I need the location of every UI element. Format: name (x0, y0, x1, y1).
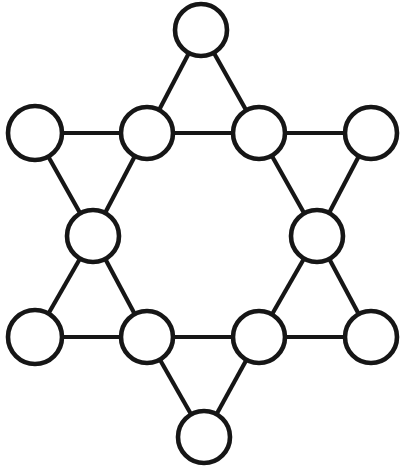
node-middle-right[interactable] (291, 210, 343, 262)
node-upper-right-inner[interactable] (233, 107, 285, 159)
node-lower-right-inner-circle[interactable] (233, 311, 285, 363)
node-bottom[interactable] (178, 411, 230, 463)
node-lower-right-outer[interactable] (345, 311, 397, 363)
node-upper-left-inner[interactable] (121, 107, 173, 159)
node-top-circle[interactable] (175, 4, 227, 56)
node-upper-left-inner-circle[interactable] (121, 107, 173, 159)
node-middle-left[interactable] (67, 210, 119, 262)
node-upper-right-outer-circle[interactable] (345, 107, 397, 159)
node-lower-left-inner[interactable] (121, 311, 173, 363)
node-lower-left-outer-circle[interactable] (8, 310, 62, 364)
node-middle-right-circle[interactable] (291, 210, 343, 262)
node-top[interactable] (175, 4, 227, 56)
node-lower-right-inner[interactable] (233, 311, 285, 363)
node-lower-left-inner-circle[interactable] (121, 311, 173, 363)
node-bottom-circle[interactable] (178, 411, 230, 463)
node-upper-right-outer[interactable] (345, 107, 397, 159)
node-upper-left-outer-circle[interactable] (8, 106, 62, 160)
node-upper-right-inner-circle[interactable] (233, 107, 285, 159)
hexagram-diagram (0, 0, 406, 467)
node-upper-left-outer[interactable] (8, 106, 62, 160)
node-lower-right-outer-circle[interactable] (345, 311, 397, 363)
node-middle-left-circle[interactable] (67, 210, 119, 262)
hexagram-puzzle-figure (0, 0, 406, 467)
node-lower-left-outer[interactable] (8, 310, 62, 364)
node-group (8, 4, 397, 463)
